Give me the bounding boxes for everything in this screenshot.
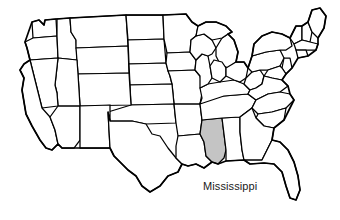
state-nebraska xyxy=(129,63,172,85)
state-north-dakota xyxy=(126,15,164,40)
state-south-dakota xyxy=(128,39,166,64)
state-utah xyxy=(55,58,80,106)
state-montana xyxy=(70,15,128,48)
us-locator-map: Mississippi xyxy=(0,0,340,220)
state-colorado xyxy=(78,73,131,106)
state-kansas xyxy=(130,84,174,105)
state-arkansas xyxy=(174,104,202,136)
state-indiana xyxy=(210,60,226,82)
state-new-mexico xyxy=(80,105,110,148)
state-texas xyxy=(108,112,182,192)
map-label-mississippi: Mississippi xyxy=(203,180,257,192)
state-wyoming xyxy=(76,46,129,74)
us-map-svg xyxy=(0,0,340,220)
